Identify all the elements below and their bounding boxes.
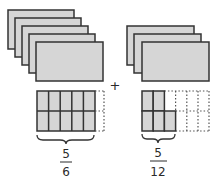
plus-operator: + xyxy=(110,78,121,93)
right-brace xyxy=(142,134,175,143)
right-fraction-denominator: 12 xyxy=(150,165,165,179)
right-fraction-grid xyxy=(142,91,209,131)
left-fraction-numerator: 5 xyxy=(62,147,70,161)
left-grid-empty-cells xyxy=(95,91,104,131)
mixed-number-addition-diagram: 5 6 + 5 12 xyxy=(0,0,218,180)
right-grid-shaded-cells xyxy=(142,91,176,131)
right-fraction-numerator: 5 xyxy=(154,146,162,160)
left-whole-card-5 xyxy=(36,42,103,81)
left-whole-cards xyxy=(8,10,103,81)
left-fraction-denominator: 6 xyxy=(62,165,70,179)
left-fraction-grid xyxy=(37,91,104,131)
right-whole-cards xyxy=(127,26,209,81)
right-whole-card-3 xyxy=(142,42,209,81)
left-brace xyxy=(37,135,94,144)
